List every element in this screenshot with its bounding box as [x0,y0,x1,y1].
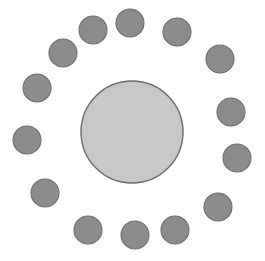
satellite-05-circle[interactable] [223,144,251,172]
satellite-07-circle[interactable] [161,216,189,244]
satellite-01-circle[interactable] [116,9,144,37]
satellite-10-circle[interactable] [31,179,59,207]
diagram-svg [0,0,265,261]
satellite-04-circle[interactable] [217,98,245,126]
satellite-09-circle[interactable] [74,216,102,244]
satellite-13-circle[interactable] [49,39,77,67]
satellite-03-circle[interactable] [206,45,234,73]
hub-circle[interactable] [81,81,183,183]
satellite-02-circle[interactable] [163,18,191,46]
satellite-14-circle[interactable] [79,16,107,44]
satellite-06-circle[interactable] [204,193,232,221]
satellite-11-circle[interactable] [13,126,41,154]
satellite-08-circle[interactable] [121,221,149,249]
diagram-canvas [0,0,265,261]
satellite-12-circle[interactable] [23,74,51,102]
hub-node-group [81,81,183,183]
